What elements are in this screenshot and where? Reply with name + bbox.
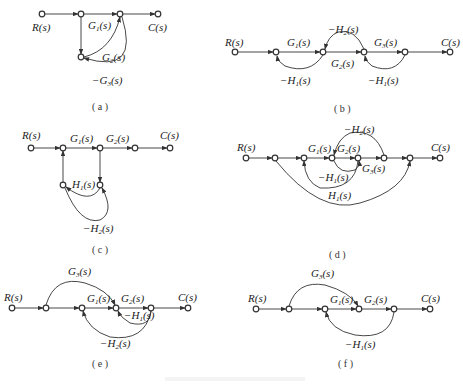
node-output: [427, 306, 433, 312]
node: [361, 49, 367, 55]
branch-label: G2(s): [102, 51, 125, 65]
input-label: R(s): [236, 141, 256, 154]
branch-label: G3(s): [362, 162, 385, 176]
node: [355, 155, 361, 161]
branch-label: −H1(s): [368, 74, 399, 88]
branch-label: G3(s): [311, 267, 334, 281]
diagram-caption: ( a ): [92, 101, 108, 113]
branch-label: G2(s): [364, 293, 387, 307]
node: [320, 49, 326, 55]
node: [381, 155, 387, 161]
branch-label: −H2(s): [344, 123, 375, 137]
branch-label: G1(s): [287, 36, 310, 50]
edge-g3: [334, 161, 359, 171]
node-input: [243, 155, 249, 161]
branch-label: G1(s): [70, 132, 93, 146]
node: [273, 49, 279, 55]
branch-label: G3(s): [374, 36, 397, 50]
node: [113, 305, 119, 311]
diagram-f: R(s) C(s) G3(s) G1(s) G2(s) −H1(s) ( f ): [247, 267, 440, 370]
node: [97, 145, 103, 151]
input-label: R(s): [3, 291, 23, 304]
node: [402, 49, 408, 55]
node-input: [9, 305, 15, 311]
branch-label: G1(s): [330, 293, 353, 307]
output-label: C(s): [421, 292, 440, 305]
diagram-caption: ( b ): [334, 103, 351, 115]
output-label: C(s): [148, 21, 167, 34]
branch-label: −G3(s): [92, 74, 123, 88]
node: [43, 305, 49, 311]
branch-label: −H2(s): [328, 23, 359, 37]
node-output: [437, 155, 443, 161]
branch-label: G2(s): [106, 132, 129, 146]
node: [78, 54, 84, 60]
edge-neg-h1-left: [277, 55, 323, 69]
edge-neg-h1: [326, 312, 394, 336]
signal-flow-figure: R(s) C(s) G1(s) G2(s) −G3(s) ( a ) R(s) …: [0, 0, 463, 384]
node-output: [167, 145, 173, 151]
diagram-caption: ( f ): [338, 358, 353, 370]
output-label: C(s): [160, 129, 179, 142]
node: [132, 145, 138, 151]
node: [407, 155, 413, 161]
node-input: [28, 145, 34, 151]
node: [60, 145, 66, 151]
node: [117, 11, 123, 17]
output-label: C(s): [441, 36, 460, 49]
diagram-c: R(s) C(s) G1(s) G2(s) H1(s) −H2(s) ( c ): [21, 129, 179, 256]
diagram-caption: ( d ): [329, 249, 346, 261]
branch-label: −H1(s): [124, 309, 155, 323]
node: [322, 306, 328, 312]
node: [97, 182, 103, 188]
branch-label: G1(s): [308, 142, 331, 156]
diagram-caption: ( c ): [92, 244, 108, 256]
node: [301, 155, 307, 161]
node: [60, 182, 66, 188]
node-input: [39, 11, 45, 17]
diagram-e: R(s) C(s) G3(s) G1(s) G2(s) −H1(s) −H2(s…: [3, 265, 197, 370]
node: [78, 11, 84, 17]
branch-label: −H1(s): [280, 74, 311, 88]
node: [329, 155, 335, 161]
branch-label: −H1(s): [345, 338, 376, 352]
diagram-b: R(s) C(s) G1(s) −H2(s) G2(s) G3(s) −H1(s…: [224, 23, 460, 115]
node-output: [447, 49, 453, 55]
branch-label: −H1(s): [318, 171, 349, 185]
node-input: [232, 49, 238, 55]
input-label: R(s): [31, 21, 51, 34]
branch-label: G2(s): [121, 292, 144, 306]
node: [286, 306, 292, 312]
output-label: C(s): [431, 141, 450, 154]
node: [79, 305, 85, 311]
branch-label: H1(s): [327, 189, 351, 203]
branch-label: G2(s): [337, 142, 360, 156]
input-label: R(s): [224, 36, 244, 49]
branch-label: G1(s): [87, 292, 110, 306]
edge-neg-h1-right: [365, 55, 405, 69]
branch-label: G2(s): [331, 57, 354, 71]
output-label: C(s): [178, 291, 197, 304]
figure-caption-faint: [165, 377, 305, 381]
branch-label: G1(s): [88, 19, 111, 33]
node-output: [185, 305, 191, 311]
node: [356, 306, 362, 312]
input-label: R(s): [247, 292, 267, 305]
branch-label: H1(s): [71, 178, 95, 192]
diagram-a: R(s) C(s) G1(s) G2(s) −G3(s) ( a ): [31, 11, 167, 113]
edge-neg-h2: [65, 188, 108, 221]
diagram-caption: ( e ): [92, 358, 108, 370]
node: [272, 155, 278, 161]
node-input: [253, 306, 259, 312]
branch-label: −H2(s): [100, 337, 131, 351]
diagram-d: R(s) C(s) −H2(s) G1(s) G2(s) G3(s) −H1(s…: [236, 123, 450, 261]
branch-label: G3(s): [68, 265, 91, 279]
input-label: R(s): [21, 129, 41, 142]
node-output: [155, 11, 161, 17]
node: [391, 306, 397, 312]
branch-label: −H2(s): [83, 222, 114, 236]
